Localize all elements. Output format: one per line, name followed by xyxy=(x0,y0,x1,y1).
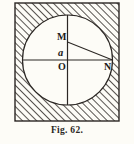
segment-label-a: a xyxy=(58,48,63,59)
figure-caption: Fig. 62. xyxy=(0,125,134,135)
point-label-n: N xyxy=(104,62,111,72)
figure-diagram xyxy=(0,0,134,144)
point-label-m: M xyxy=(57,32,67,42)
point-label-o: O xyxy=(58,62,66,72)
figure-62-container: M a O N Fig. 62. xyxy=(0,0,134,144)
